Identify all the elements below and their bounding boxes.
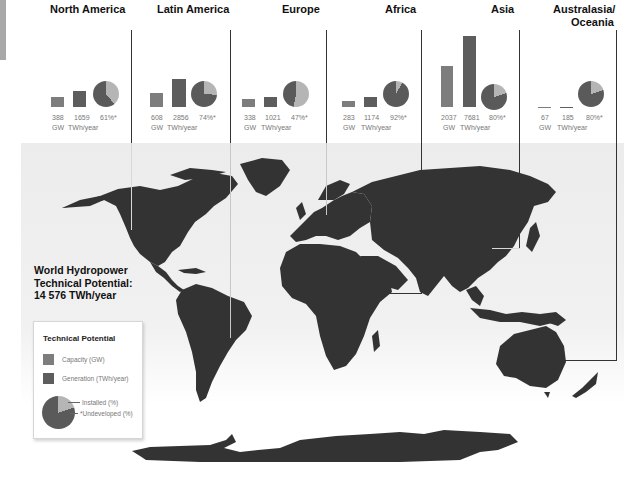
generation-unit-latin-america: TWh/year: [167, 123, 197, 132]
undeveloped-value-north-america: 61%*: [100, 113, 117, 122]
greenland-landmass: [240, 158, 290, 196]
europe-connector-map-line: [326, 143, 327, 215]
region-title-latin-america: Latin America: [157, 3, 229, 16]
africa-connector-elbow: [360, 293, 422, 294]
legend-box: Technical Potential Capacity (GW) Genera…: [33, 321, 143, 439]
world-total-title-line1: World Hydropower: [34, 264, 132, 277]
antarctica-landmass: [132, 430, 518, 462]
capacity-bar-latin-america: [150, 93, 163, 107]
region-title-africa: Africa: [385, 3, 416, 16]
capacity-bar-asia: [441, 66, 453, 107]
generation-bar-latin-america: [172, 79, 186, 107]
region-title-north-america: North America: [50, 3, 125, 16]
capacity-bar-north-america: [51, 97, 64, 107]
capacity-bar-europe: [242, 99, 255, 107]
generation-unit-europe: TWh/year: [261, 123, 291, 132]
capacity-bar-africa: [342, 101, 355, 107]
capacity-value-north-america: 388: [52, 113, 64, 122]
north-america-connector-line: [131, 30, 132, 143]
capacity-bar-oceania: [538, 107, 551, 108]
region-title-europe: Europe: [282, 3, 320, 16]
undeveloped-pie-oceania: [578, 81, 604, 107]
undeveloped-pie-north-america: [93, 81, 119, 107]
asia-connector-elbow: [492, 248, 520, 249]
region-title-oceania-line1: Australasia/: [553, 3, 615, 16]
central-america-landmass: [150, 262, 184, 292]
generation-value-africa: 1174: [364, 113, 379, 122]
legend-capacity-label: Capacity (GW): [62, 356, 105, 363]
undeveloped-value-oceania: 80%*: [586, 113, 603, 122]
africa-connector-line: [421, 30, 422, 293]
capacity-unit-europe: GW: [244, 123, 256, 132]
capacity-swatch-icon: [43, 354, 54, 365]
undeveloped-value-latin-america: 74%*: [199, 113, 216, 122]
generation-bar-asia: [463, 36, 476, 107]
region-title-oceania-line2: Oceania: [571, 16, 614, 29]
latin-america-connector-line: [230, 30, 231, 143]
japan-landmass: [526, 222, 540, 252]
tasmania-landmass: [544, 392, 550, 398]
alaska-landmass: [62, 196, 104, 208]
undeveloped-value-asia: 80%*: [489, 113, 506, 122]
generation-unit-africa: TWh/year: [361, 123, 391, 132]
generation-value-north-america: 1659: [74, 113, 90, 122]
generation-bar-north-america: [73, 91, 86, 107]
generation-unit-north-america: TWh/year: [68, 123, 98, 132]
generation-value-oceania: 185: [562, 113, 574, 122]
undeveloped-pie-latin-america: [191, 81, 217, 107]
north-america-landmass: [62, 173, 238, 266]
generation-unit-asia: TWh/year: [460, 123, 490, 132]
australia-landmass: [496, 326, 566, 388]
world-total-title-line3: 14 576 TWh/year: [34, 289, 132, 302]
generation-bar-oceania: [560, 107, 573, 108]
generation-value-asia: 7681: [464, 113, 480, 122]
legend-installed-pointer: [68, 402, 80, 403]
generation-unit-oceania: TWh/year: [557, 123, 587, 132]
undeveloped-value-europe: 47%*: [291, 113, 308, 122]
south-america-landmass: [176, 284, 252, 402]
generation-bar-africa: [364, 97, 377, 107]
generation-bar-europe: [264, 97, 277, 107]
capacity-value-europe: 338: [244, 113, 256, 122]
region-title-asia: Asia: [491, 3, 514, 16]
madagascar-landmass: [372, 330, 380, 352]
undeveloped-value-africa: 92%*: [390, 113, 407, 122]
north-america-connector-map-line: [131, 143, 132, 230]
capacity-unit-latin-america: GW: [151, 123, 163, 132]
world-total-title: World Hydropower Technical Potential: 14…: [34, 264, 132, 302]
undeveloped-pie-africa: [383, 81, 409, 107]
europe-connector-line: [326, 30, 327, 143]
undeveloped-pie-europe: [283, 81, 309, 107]
capacity-value-africa: 283: [343, 113, 355, 122]
uk-landmass: [296, 202, 306, 220]
capacity-unit-north-america: GW: [52, 123, 64, 132]
generation-value-europe: 1021: [265, 113, 281, 122]
capacity-unit-africa: GW: [343, 123, 355, 132]
latin-america-connector-map-line: [230, 143, 231, 338]
southeast-asia-landmass: [466, 286, 484, 306]
oceania-connector-elbow: [551, 360, 617, 361]
generation-swatch-icon: [43, 373, 54, 384]
legend-generation-label: Generation (TWh/year): [62, 375, 128, 382]
world-total-title-line2: Technical Potential:: [34, 277, 132, 290]
legend-undeveloped-pointer: [70, 413, 78, 414]
capacity-unit-asia: GW: [443, 123, 455, 132]
asia-connector-line: [519, 30, 520, 248]
legend-undeveloped-label: *Undeveloped (%): [80, 410, 133, 417]
undeveloped-pie-asia: [481, 84, 507, 110]
capacity-value-oceania: 67: [541, 113, 549, 122]
legend-installed-label: Installed (%): [82, 399, 118, 406]
capacity-value-latin-america: 608: [151, 113, 163, 122]
capacity-value-asia: 2037: [441, 113, 457, 122]
new-zealand-landmass: [572, 372, 598, 398]
generation-value-latin-america: 2856: [173, 113, 189, 122]
caribbean-islands: [178, 268, 206, 274]
capacity-unit-oceania: GW: [539, 123, 551, 132]
oceania-connector-line: [616, 30, 617, 361]
legend-title: Technical Potential: [43, 334, 115, 343]
